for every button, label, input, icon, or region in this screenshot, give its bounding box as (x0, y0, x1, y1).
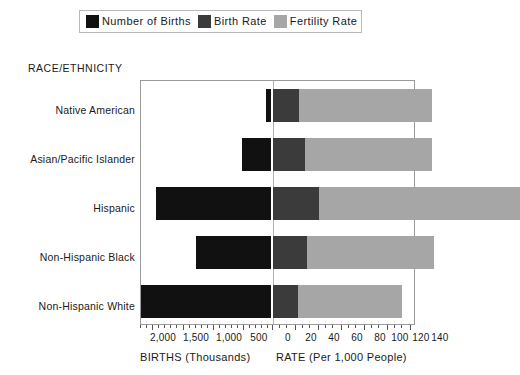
tick-label-births-500: 500 (250, 332, 267, 343)
tick-label-rate-40: 40 (328, 332, 340, 343)
bar-birth-rate (273, 236, 307, 269)
bar-group-non-hispanic-black (141, 228, 414, 277)
category-label-asian-pacific-islander: Asian/Pacific Islander (30, 153, 135, 165)
bar-birth-rate (273, 187, 319, 220)
bar-number-of-births (242, 138, 271, 171)
legend-swatch-icon (86, 15, 99, 28)
category-label-hispanic: Hispanic (93, 202, 135, 214)
chart-legend: Number of Births Birth Rate Fertility Ra… (79, 10, 362, 33)
bar-birth-rate (273, 285, 298, 318)
bar-group-asian-pacific-islander (141, 130, 414, 179)
bar-fertility-rate (298, 285, 402, 318)
bar-group-hispanic (141, 179, 414, 228)
axis-tick-labels: 2,000 1,500 1,000 500 0 20 40 60 80 100 … (0, 332, 438, 346)
bar-birth-rate (273, 138, 305, 171)
bar-group-native-american (141, 81, 414, 130)
legend-item-number-of-births: Number of Births (86, 15, 191, 28)
category-label-non-hispanic-white: Non-Hispanic White (39, 300, 135, 312)
legend-item-fertility-rate: Fertility Rate (274, 15, 357, 28)
tick-label-rate-0: 0 (285, 332, 291, 343)
tick-label-rate-60: 60 (351, 332, 363, 343)
bar-group-non-hispanic-white (141, 277, 414, 326)
legend-swatch-icon (198, 15, 211, 28)
category-label-non-hispanic-black: Non-Hispanic Black (40, 251, 135, 263)
bar-fertility-rate (305, 138, 432, 171)
legend-label: Birth Rate (214, 16, 267, 27)
tick-label-rate-120: 120 (412, 332, 429, 343)
bar-number-of-births (156, 187, 271, 220)
bar-number-of-births (196, 236, 271, 269)
category-axis-title: RACE/ETHNICITY (28, 62, 123, 74)
legend-swatch-icon (274, 15, 287, 28)
tick-label-births-2000: 2,000 (150, 332, 176, 343)
legend-item-birth-rate: Birth Rate (198, 15, 267, 28)
tick-label-rate-140: 140 (431, 332, 448, 343)
tick-label-rate-80: 80 (374, 332, 386, 343)
bar-number-of-births (141, 285, 271, 318)
legend-label: Fertility Rate (290, 16, 357, 27)
tick-label-rate-100: 100 (391, 332, 408, 343)
right-axis-caption: RATE (Per 1,000 People) (276, 351, 407, 363)
bar-fertility-rate (307, 236, 434, 269)
left-axis-caption: BIRTHS (Thousands) (140, 351, 250, 363)
legend-label: Number of Births (102, 16, 191, 27)
plot-area (140, 80, 415, 325)
bar-birth-rate (273, 89, 299, 122)
bar-fertility-rate (319, 187, 520, 220)
bottom-axis-ticks (140, 325, 415, 330)
tick-label-rate-20: 20 (305, 332, 317, 343)
tick-label-births-1500: 1,500 (183, 332, 209, 343)
bar-fertility-rate (299, 89, 432, 122)
tick-label-births-1000: 1,000 (216, 332, 242, 343)
category-label-native-american: Native American (56, 104, 135, 116)
bar-number-of-births (266, 89, 271, 122)
